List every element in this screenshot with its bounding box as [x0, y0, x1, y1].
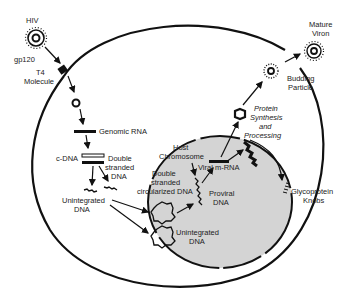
label-viron: Viron — [312, 30, 329, 39]
label-unintegrated-nuc-dna: DNA — [189, 238, 205, 247]
capsid-core-icon — [235, 109, 245, 119]
label-proviral-dna: DNA — [213, 199, 229, 208]
hiv-virion-icon — [26, 28, 47, 49]
label-chromosome: Chromosome — [159, 153, 204, 162]
label-viral-mrna: Viral m-RNA — [198, 164, 240, 173]
label-knobs: Knobs — [303, 197, 324, 206]
label-processing: Processing — [244, 132, 281, 141]
uncoated-core-icon — [73, 100, 80, 107]
label-hiv: HIV — [26, 17, 39, 26]
cdna-bar — [82, 154, 104, 157]
label-molecule: Molecule — [24, 78, 54, 87]
budding-particle-icon — [264, 64, 278, 78]
label-gp120: gp120 — [14, 56, 35, 65]
mature-virion-icon — [305, 42, 324, 61]
genomic-rna-bar — [74, 130, 96, 133]
unintegrated-dna-squiggle — [84, 189, 97, 192]
label-ds-circ-3: circularized DNA — [137, 188, 193, 197]
label-dna: DNA — [111, 173, 127, 182]
label-genomic-rna: Genomic RNA — [99, 128, 147, 137]
label-particle: Particle — [288, 84, 313, 93]
label-unintegrated-cyto-dna: DNA — [74, 206, 90, 215]
unintegrated-dna-squiggle — [104, 187, 117, 190]
label-cdna: c-DNA — [56, 155, 78, 164]
ds-dna-bar — [82, 161, 104, 164]
